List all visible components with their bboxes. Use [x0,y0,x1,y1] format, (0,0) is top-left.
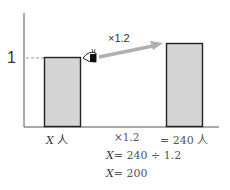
equation-line-2: X= 200 [106,167,148,180]
equation-1-variable: X [106,149,114,162]
middle-label: ×1.2 [114,131,140,143]
left-variable: X [46,134,54,147]
equation-2-variable: X [106,167,114,180]
bar-right [167,44,203,127]
bar-left [45,58,81,127]
eye-icon [83,49,96,62]
ratio-diagram: 1 ×1.2 X 人 ×1.2 = 240 人 X= 240 ÷ 1.2 X= … [0,0,230,190]
bar-left-label: X 人 [46,131,68,147]
equation-1-rest: = 240 ÷ 1.2 [114,149,181,162]
y-tick-label: 1 [7,49,16,67]
equation-line-1: X= 240 ÷ 1.2 [106,149,181,162]
arrow-label: ×1.2 [108,32,130,44]
equation-2-rest: = 200 [114,167,148,180]
left-unit: 人 [57,134,68,147]
bar-right-label: = 240 人 [160,131,208,147]
